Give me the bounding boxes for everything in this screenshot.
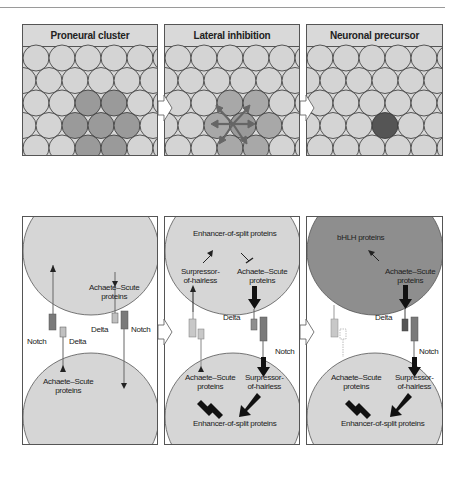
label-achaete-scute-top: Achaete–Scute proteins (89, 283, 139, 301)
label-achaete-scute-bottom: Achaete–Scute proteins (185, 373, 235, 391)
cell-pair-diagram (307, 217, 443, 445)
notch-receptor (121, 311, 128, 329)
notch-receptor (260, 317, 267, 341)
label-suppressor-bottom: Surpressor- of-hairless (395, 373, 434, 391)
signaling-panel-precursor: bHLH proteins Achaete–Scute proteins Del… (306, 216, 443, 445)
label-bhlh-proteins: bHLH proteins (337, 233, 384, 242)
label-delta: Delta (223, 313, 240, 322)
label-delta: Delta (375, 313, 392, 322)
label-enhancer-of-split-bottom: Enhancer-of-split proteins (193, 419, 276, 428)
label-enhancer-of-split-bottom: Enhancer-of-split proteins (341, 419, 424, 428)
delta-ligand (112, 313, 118, 323)
label-delta-bottom: Delta (69, 337, 86, 346)
delta-ligand (60, 327, 66, 337)
label-enhancer-of-split-top: Enhancer-of-split proteins (193, 229, 276, 238)
cell-pair-diagram (165, 217, 300, 445)
panel-proneural-cluster: Proneural cluster (22, 24, 158, 156)
label-achaete-scute-top: Achaete–Scute proteins (385, 267, 435, 285)
signaling-panel-proneural: Achaete–Scute proteins Delta Notch Notch… (22, 216, 158, 445)
panel-neuronal-precursor: Neuronal precursor (306, 24, 443, 156)
label-achaete-scute-bottom: Achaete–Scute proteins (331, 373, 381, 391)
delta-ligand-faded (198, 329, 204, 339)
cell-grid (165, 25, 300, 156)
notch-receptor-faded (331, 319, 338, 337)
label-achaete-scute-bottom: Achaete–Scute proteins (43, 377, 93, 395)
delta-absent (340, 329, 346, 339)
label-notch-bottom: Notch (27, 337, 46, 346)
panel-lateral-inhibition: Lateral inhibition (164, 24, 300, 156)
label-achaete-scute-top: Achaete–Scute proteins (237, 267, 287, 285)
label-notch: Notch (275, 347, 294, 356)
lower-cell (307, 353, 443, 445)
delta-ligand (251, 319, 257, 330)
cell-grid (23, 25, 158, 156)
lower-cell (165, 353, 300, 445)
notch-receptor (49, 314, 56, 330)
notch-receptor-faded (189, 319, 196, 337)
label-notch: Notch (419, 347, 438, 356)
label-notch-top: Notch (131, 325, 150, 334)
signaling-panel-lateral: Enhancer-of-split proteins Surpressor- o… (164, 216, 300, 445)
lower-cell (23, 353, 158, 445)
label-delta-top: Delta (91, 325, 108, 334)
label-suppressor-top: Surpressor- of-hairless (181, 267, 220, 285)
top-rule (0, 7, 445, 8)
label-suppressor-bottom: Surpressor- of-hairless (245, 373, 284, 391)
notch-receptor (411, 317, 418, 341)
upper-cell-dark (307, 217, 443, 315)
delta-ligand-dark (402, 319, 408, 331)
cell-grid (307, 25, 443, 156)
